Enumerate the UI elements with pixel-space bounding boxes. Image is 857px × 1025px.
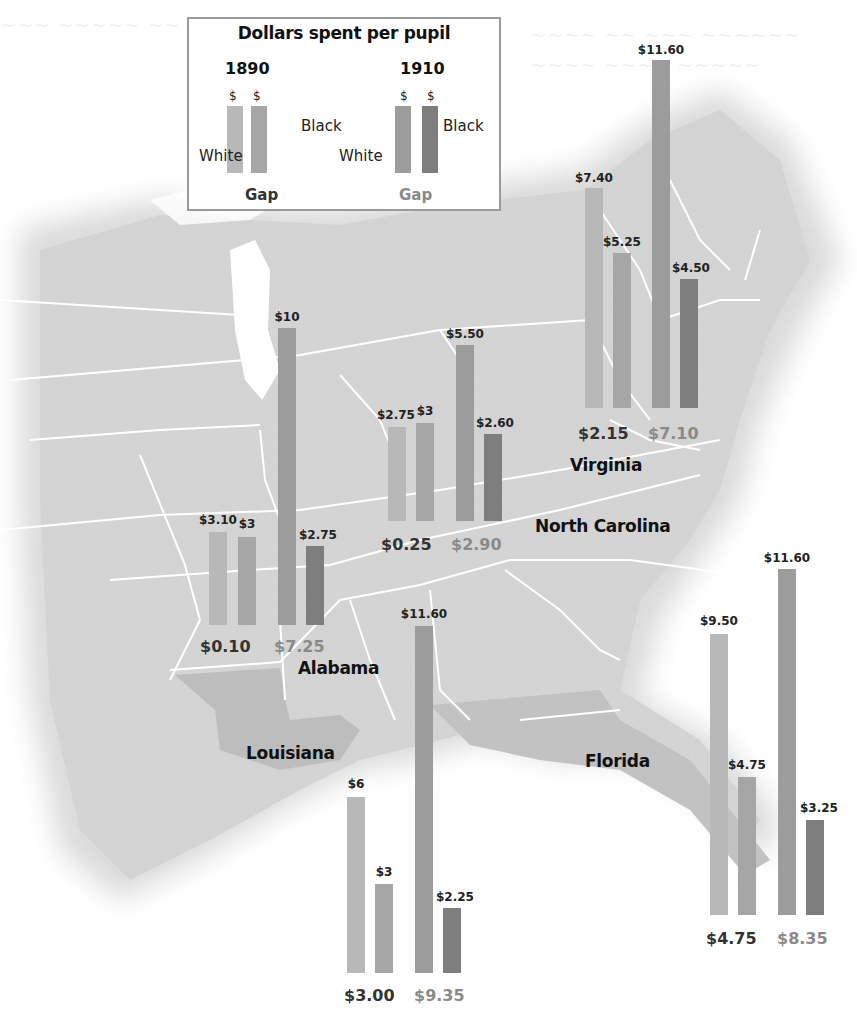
legend-white-label: White [199, 147, 243, 165]
gap-1890-alabama: $0.10 [200, 637, 251, 656]
value-label: $10 [257, 310, 317, 324]
bar-virginia-black-1890 [613, 253, 631, 408]
bar-virginia-white-1910 [652, 60, 670, 408]
value-label: $3 [395, 404, 455, 418]
value-label: $7.40 [564, 171, 624, 185]
value-label: $11.60 [757, 551, 817, 565]
bar-nc-black-1910 [484, 434, 502, 521]
value-label: $5.25 [592, 235, 652, 249]
value-label: $9.50 [689, 614, 749, 628]
state-label-louisiana: Louisiana [246, 743, 335, 763]
legend-black-label: Black [301, 117, 342, 135]
bar-nc-white-1910 [456, 345, 474, 521]
value-label: $3 [217, 517, 277, 531]
legend-bar-black-1890 [251, 106, 267, 173]
value-label: $4.75 [717, 758, 777, 772]
state-label-florida: Florida [585, 751, 650, 771]
legend-box: Dollars spent per pupil 1890 1910 $ $ $ … [187, 17, 501, 211]
legend-year-1910: 1910 [400, 59, 445, 78]
gap-1890-north-carolina: $0.25 [381, 535, 432, 554]
bar-alabama-black-1890 [238, 537, 256, 625]
value-label: $3 [354, 865, 414, 879]
gap-1890-louisiana: $3.00 [344, 986, 395, 1005]
legend-title: Dollars spent per pupil [189, 23, 499, 43]
bar-alabama-white-1890 [209, 532, 227, 625]
gap-1890-florida: $4.75 [706, 929, 757, 948]
legend-bar-white-1910 [395, 106, 411, 173]
legend-white-label: White [339, 147, 383, 165]
legend-dollar: $ [400, 89, 408, 103]
value-label: $5.50 [435, 327, 495, 341]
value-label: $4.50 [661, 261, 721, 275]
bar-louisiana-white-1890 [347, 797, 365, 973]
legend-bar-black-1910 [422, 106, 438, 173]
value-label: $2.75 [288, 528, 348, 542]
legend-gap-1890: Gap [245, 186, 278, 204]
value-label: $2.60 [465, 416, 525, 430]
bar-florida-black-1890 [738, 777, 756, 915]
gap-1910-louisiana: $9.35 [414, 986, 465, 1005]
bar-nc-white-1890 [388, 427, 406, 521]
gap-1910-alabama: $7.25 [274, 637, 325, 656]
value-label: $6 [326, 777, 386, 791]
gap-1910-north-carolina: $2.90 [451, 535, 502, 554]
value-label: $11.60 [631, 43, 691, 57]
legend-dollar: $ [427, 89, 435, 103]
legend-dollar: $ [253, 89, 261, 103]
bar-louisiana-black-1890 [375, 884, 393, 973]
gap-1910-florida: $8.35 [777, 929, 828, 948]
bar-louisiana-white-1910 [415, 626, 433, 973]
gap-1910-virginia: $7.10 [648, 424, 699, 443]
bar-florida-white-1890 [710, 634, 728, 915]
bar-virginia-white-1890 [585, 188, 603, 408]
bar-alabama-black-1910 [306, 546, 324, 625]
gap-1890-virginia: $2.15 [578, 424, 629, 443]
bar-florida-white-1910 [778, 569, 796, 915]
state-label-north-carolina: North Carolina [535, 516, 670, 536]
state-label-alabama: Alabama [298, 658, 379, 678]
legend-dollar: $ [229, 89, 237, 103]
value-label: $3.25 [789, 801, 849, 815]
legend-gap-1910: Gap [399, 186, 432, 204]
value-label: $2.25 [425, 890, 485, 904]
bar-louisiana-black-1910 [443, 908, 461, 973]
bar-alabama-white-1910 [278, 328, 296, 625]
legend-black-label: Black [443, 117, 484, 135]
legend-year-1890: 1890 [225, 59, 270, 78]
bar-florida-black-1910 [806, 820, 824, 915]
state-label-virginia: Virginia [570, 455, 642, 475]
bar-virginia-black-1910 [680, 279, 698, 408]
bar-nc-black-1890 [416, 423, 434, 521]
value-label: $11.60 [394, 607, 454, 621]
